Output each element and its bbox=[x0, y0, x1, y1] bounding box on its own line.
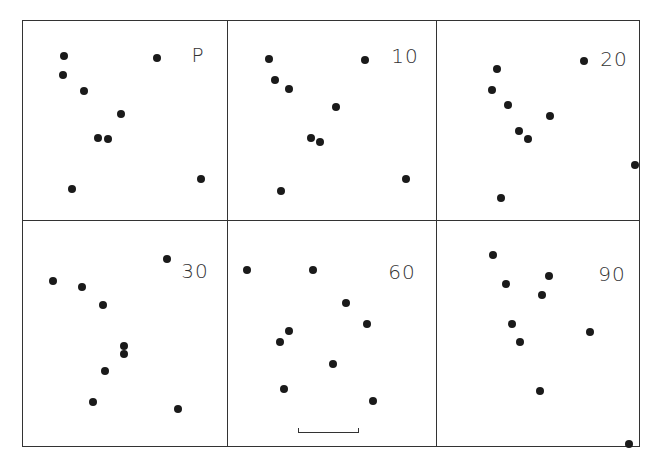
data-point bbox=[117, 110, 125, 118]
data-point bbox=[120, 350, 128, 358]
data-point bbox=[538, 291, 546, 299]
data-point bbox=[78, 283, 86, 291]
panel-label: 30 bbox=[181, 259, 208, 283]
data-point bbox=[163, 255, 171, 263]
data-point bbox=[402, 175, 410, 183]
data-point bbox=[276, 338, 284, 346]
panel-label: 60 bbox=[388, 260, 415, 284]
data-point bbox=[546, 112, 554, 120]
data-point bbox=[243, 266, 251, 274]
column-divider bbox=[227, 20, 228, 447]
data-point bbox=[363, 320, 371, 328]
data-point bbox=[277, 187, 285, 195]
data-point bbox=[524, 135, 532, 143]
data-point bbox=[49, 277, 57, 285]
data-point bbox=[99, 301, 107, 309]
data-point bbox=[545, 272, 553, 280]
data-point bbox=[153, 54, 161, 62]
data-point bbox=[580, 57, 588, 65]
data-point bbox=[502, 280, 510, 288]
data-point bbox=[369, 397, 377, 405]
data-point bbox=[80, 87, 88, 95]
data-point bbox=[631, 161, 639, 169]
data-point bbox=[508, 320, 516, 328]
data-point bbox=[60, 52, 68, 60]
data-point bbox=[197, 175, 205, 183]
data-point bbox=[329, 360, 337, 368]
panel-label: 20 bbox=[600, 47, 627, 71]
data-point bbox=[101, 367, 109, 375]
data-point bbox=[68, 185, 76, 193]
panel-label: 90 bbox=[598, 262, 625, 286]
data-point bbox=[285, 327, 293, 335]
data-point bbox=[536, 387, 544, 395]
row-divider bbox=[22, 220, 640, 221]
data-point bbox=[89, 398, 97, 406]
data-point bbox=[104, 135, 112, 143]
data-point bbox=[489, 251, 497, 259]
data-point bbox=[504, 101, 512, 109]
figure-border bbox=[22, 20, 640, 447]
data-point bbox=[94, 134, 102, 142]
data-point bbox=[515, 127, 523, 135]
data-point bbox=[332, 103, 340, 111]
data-point bbox=[120, 342, 128, 350]
data-point bbox=[307, 134, 315, 142]
data-point bbox=[316, 138, 324, 146]
data-point bbox=[342, 299, 350, 307]
data-point bbox=[493, 65, 501, 73]
data-point bbox=[516, 338, 524, 346]
panel-label: 10 bbox=[391, 44, 418, 68]
data-point bbox=[309, 266, 317, 274]
data-point bbox=[586, 328, 594, 336]
data-point bbox=[488, 86, 496, 94]
data-point bbox=[174, 405, 182, 413]
data-point bbox=[59, 71, 67, 79]
data-point bbox=[265, 55, 273, 63]
data-point bbox=[285, 85, 293, 93]
column-divider bbox=[436, 20, 437, 447]
data-point bbox=[280, 385, 288, 393]
data-point bbox=[271, 76, 279, 84]
scale-bar bbox=[298, 428, 359, 433]
data-point bbox=[625, 440, 633, 448]
data-point bbox=[497, 194, 505, 202]
data-point bbox=[361, 56, 369, 64]
figure-grid: P1020306090 bbox=[0, 0, 656, 469]
panel-label: P bbox=[191, 43, 204, 67]
